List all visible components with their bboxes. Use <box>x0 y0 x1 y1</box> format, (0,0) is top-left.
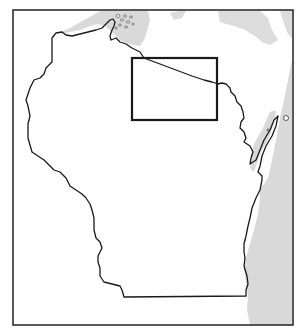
wisconsin-map <box>0 0 305 334</box>
